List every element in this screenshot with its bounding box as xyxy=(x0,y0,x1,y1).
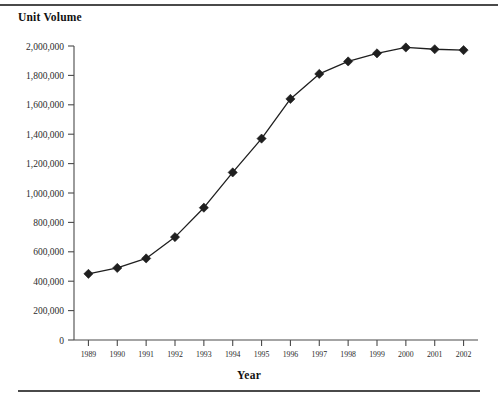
data-point-marker xyxy=(459,46,468,55)
x-tick-label: 1999 xyxy=(369,350,385,359)
x-tick-label: 1989 xyxy=(81,350,97,359)
y-tick-label: 400,000 xyxy=(33,277,64,287)
data-point-marker xyxy=(401,43,410,52)
y-tick-label: 1,800,000 xyxy=(26,71,64,81)
x-tick-label: 2002 xyxy=(456,350,472,359)
data-point-marker xyxy=(142,254,151,263)
x-tick-label: 1992 xyxy=(167,350,183,359)
x-tick-label: 1994 xyxy=(225,350,241,359)
y-tick-label: 1,400,000 xyxy=(26,130,64,140)
data-point-marker xyxy=(372,49,381,58)
chart-canvas: 0200,000400,000600,000800,0001,000,0001,… xyxy=(0,0,498,400)
y-tick-label: 2,000,000 xyxy=(26,42,64,52)
y-tick-label: 0 xyxy=(59,336,64,346)
x-tick-label: 1998 xyxy=(340,350,356,359)
data-point-marker xyxy=(430,45,439,54)
line-chart: 0200,000400,000600,000800,0001,000,0001,… xyxy=(0,0,498,400)
data-point-marker xyxy=(344,57,353,66)
x-tick-label: 2000 xyxy=(398,350,414,359)
x-tick-label: 1990 xyxy=(109,350,125,359)
footer-divider xyxy=(18,390,480,392)
x-tick-label: 1991 xyxy=(138,350,154,359)
series-line-unit-volume xyxy=(88,47,463,273)
series-markers xyxy=(84,43,468,279)
x-tick-label: 1993 xyxy=(196,350,212,359)
y-tick-label: 1,200,000 xyxy=(26,159,64,169)
x-tick-label: 2001 xyxy=(427,350,443,359)
data-point-marker xyxy=(113,263,122,272)
x-tick-label: 1995 xyxy=(254,350,270,359)
data-point-marker xyxy=(84,269,93,278)
y-tick-label: 1,000,000 xyxy=(26,189,64,199)
x-tick-label: 1996 xyxy=(283,350,299,359)
x-axis-ticks: 1989199019911992199319941995199619971998… xyxy=(81,340,472,359)
x-tick-label: 1997 xyxy=(311,350,327,359)
y-tick-label: 600,000 xyxy=(33,247,64,257)
y-axis-ticks: 0200,000400,000600,000800,0001,000,0001,… xyxy=(26,42,74,346)
x-axis-title: Year xyxy=(0,369,498,381)
y-tick-label: 1,600,000 xyxy=(26,100,64,110)
y-tick-label: 200,000 xyxy=(33,306,64,316)
y-tick-label: 800,000 xyxy=(33,218,64,228)
